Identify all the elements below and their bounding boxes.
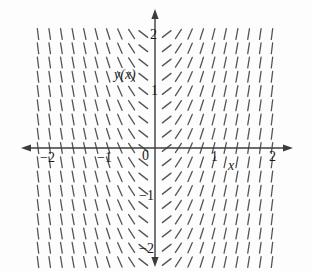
slope-segment bbox=[248, 200, 250, 211]
slope-segment bbox=[49, 114, 51, 125]
slope-segment bbox=[271, 57, 272, 68]
slope-segment bbox=[84, 86, 86, 97]
slope-segment bbox=[61, 157, 63, 168]
slope-segment bbox=[200, 243, 203, 253]
slope-segment bbox=[61, 86, 63, 97]
slope-segment bbox=[37, 71, 38, 82]
slope-segment bbox=[37, 185, 38, 196]
slope-segment bbox=[84, 100, 86, 111]
slope-segment bbox=[224, 157, 226, 168]
slope-segment bbox=[162, 173, 171, 180]
slope-segment bbox=[236, 71, 238, 82]
slope-segment bbox=[236, 29, 238, 40]
slope-segment bbox=[212, 200, 215, 211]
slope-segment bbox=[84, 57, 86, 68]
slope-segment bbox=[37, 43, 38, 54]
slope-segment bbox=[162, 202, 171, 209]
slope-segment bbox=[248, 171, 250, 182]
slope-segment bbox=[162, 45, 171, 52]
slope-segment bbox=[248, 228, 250, 239]
slope-segment bbox=[175, 257, 181, 266]
slope-segment bbox=[129, 229, 135, 238]
slope-segment bbox=[271, 114, 272, 125]
slope-segment bbox=[129, 215, 135, 224]
slope-segment bbox=[212, 57, 215, 68]
slope-segment bbox=[236, 128, 238, 139]
slope-segment bbox=[129, 158, 135, 167]
slope-segment bbox=[271, 100, 272, 111]
slope-segment bbox=[224, 214, 226, 225]
slope-segment bbox=[236, 242, 238, 253]
slope-segment bbox=[129, 129, 135, 138]
slope-segment bbox=[61, 228, 63, 239]
slope-segment bbox=[260, 128, 262, 139]
slope-segment bbox=[139, 73, 148, 80]
slope-segment bbox=[95, 43, 98, 54]
slope-segment bbox=[200, 171, 203, 181]
slope-segment bbox=[107, 100, 110, 110]
slope-segment bbox=[139, 31, 148, 38]
slope-segment bbox=[248, 128, 250, 139]
slope-segment bbox=[162, 130, 171, 137]
slope-segment bbox=[61, 242, 63, 253]
slope-segment bbox=[236, 43, 238, 54]
slope-segment bbox=[175, 172, 181, 181]
slope-segment bbox=[118, 186, 122, 196]
slope-segment bbox=[212, 228, 215, 239]
slope-segment bbox=[49, 86, 51, 97]
slope-segment bbox=[129, 86, 135, 95]
slope-segment bbox=[175, 215, 181, 224]
slope-segment bbox=[260, 257, 262, 268]
slope-segment bbox=[95, 171, 98, 182]
slope-segment bbox=[224, 128, 226, 139]
slope-segment bbox=[224, 114, 226, 125]
slope-segment bbox=[162, 187, 171, 194]
slope-segment bbox=[118, 43, 122, 53]
slope-segment bbox=[212, 100, 215, 111]
slope-segment bbox=[61, 128, 63, 139]
slope-segment bbox=[175, 44, 181, 53]
slope-segment bbox=[271, 29, 272, 40]
slope-segment bbox=[118, 214, 122, 224]
slope-segment bbox=[200, 228, 203, 238]
y-tick-label-pos1: 1 bbox=[151, 84, 158, 98]
slope-segment bbox=[188, 100, 192, 110]
slope-segment bbox=[248, 242, 250, 253]
slope-segment bbox=[260, 214, 262, 225]
slope-segment bbox=[248, 100, 250, 111]
slope-segment bbox=[236, 200, 238, 211]
slope-segment bbox=[129, 172, 135, 181]
slope-segment bbox=[175, 115, 181, 124]
slope-segment bbox=[212, 185, 215, 196]
slope-segment bbox=[224, 57, 226, 68]
slope-segment bbox=[188, 129, 192, 139]
slope-segment bbox=[37, 214, 38, 225]
slope-segment bbox=[162, 59, 171, 66]
slope-segment bbox=[72, 242, 74, 253]
slope-segment bbox=[129, 29, 135, 38]
slope-segment bbox=[61, 57, 63, 68]
slope-segment bbox=[95, 29, 98, 40]
slope-segment bbox=[49, 185, 51, 196]
slope-segment bbox=[95, 242, 98, 253]
slope-segment bbox=[188, 57, 192, 67]
slope-segment bbox=[139, 173, 148, 180]
slope-segment bbox=[260, 100, 262, 111]
slope-segment bbox=[118, 200, 122, 210]
slope-field-figure: −2 −1 0 1 2 2 1 −1 −2 y(x) x bbox=[0, 0, 312, 271]
slope-segment bbox=[162, 73, 171, 80]
slope-segment bbox=[248, 185, 250, 196]
slope-segment bbox=[49, 214, 51, 225]
slope-segment bbox=[107, 186, 110, 196]
slope-segment bbox=[236, 86, 238, 97]
slope-segment bbox=[212, 257, 215, 268]
slope-segment bbox=[37, 200, 38, 211]
slope-segment bbox=[139, 230, 148, 237]
slope-segment bbox=[107, 200, 110, 210]
slope-segment bbox=[200, 214, 203, 224]
slope-segment bbox=[49, 257, 51, 268]
slope-segment bbox=[49, 100, 51, 111]
slope-segment bbox=[139, 216, 148, 223]
slope-segment bbox=[84, 214, 86, 225]
slope-segment bbox=[175, 86, 181, 95]
